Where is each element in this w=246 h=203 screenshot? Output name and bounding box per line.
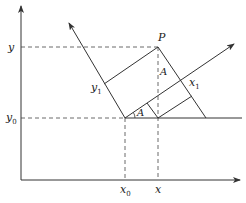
foot-parallel bbox=[158, 96, 192, 118]
label-x1: x1 bbox=[189, 76, 200, 91]
rotation-diagram: y y0 x0 x P x1 y1 A A bbox=[0, 0, 246, 203]
label-angle-origin: A bbox=[136, 107, 144, 118]
label-P: P bbox=[157, 31, 166, 44]
angle-arc-origin bbox=[133, 112, 135, 118]
foot-perpendicular bbox=[147, 103, 158, 118]
label-x: x bbox=[155, 183, 162, 196]
label-x0: x0 bbox=[120, 183, 131, 198]
label-y: y bbox=[7, 41, 15, 54]
y1-axis bbox=[69, 23, 125, 118]
label-angle-P: A bbox=[159, 66, 167, 77]
label-y1: y1 bbox=[90, 81, 102, 96]
p-to-y1-projection bbox=[104, 47, 158, 84]
label-y0: y0 bbox=[5, 111, 17, 126]
